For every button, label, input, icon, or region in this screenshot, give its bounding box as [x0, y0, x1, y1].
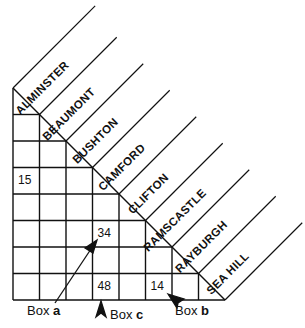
box-c-caption: Box c [110, 307, 143, 322]
town-label: ALMINSTER [13, 58, 71, 116]
box-c-arrowhead-icon [96, 301, 106, 317]
box-b-caption: Box b [175, 303, 209, 318]
box-a-arrow-line [55, 246, 93, 303]
town-label: BEAUMONT [40, 86, 97, 143]
cell-value: 15 [18, 173, 32, 187]
town-label-bands [13, 6, 302, 300]
cell-value: 14 [151, 279, 165, 293]
box-a-caption: Box a [27, 303, 60, 318]
town-label: RAYBURGH [173, 218, 229, 274]
cell-value: 48 [98, 279, 112, 293]
box-a-arrowhead-icon [85, 240, 97, 253]
town-labels: ALMINSTERBEAUMONTBUSHTONCAMFORDCLIFTONRA… [13, 58, 251, 296]
town-label: CAMFORD [96, 141, 148, 193]
town-label: CLIFTON [126, 171, 171, 216]
distance-table-diagram: ALMINSTERBEAUMONTBUSHTONCAMFORDCLIFTONRA… [0, 0, 305, 328]
cell-value: 34 [98, 226, 112, 240]
town-label: BUSHTON [70, 116, 120, 166]
town-label: SEA HILL [204, 250, 251, 297]
